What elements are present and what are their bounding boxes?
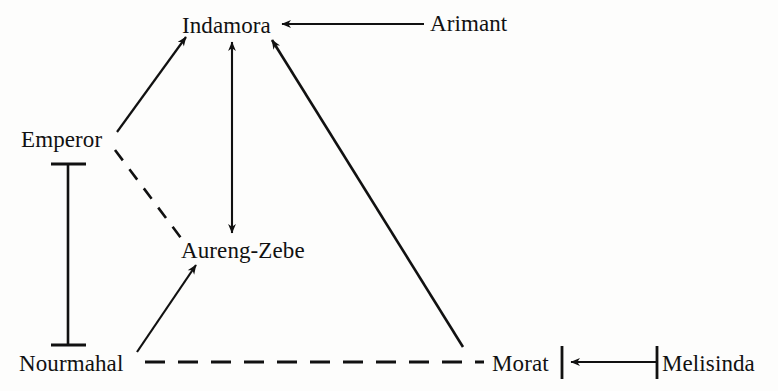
node-aureng-zebe[interactable]: Aureng-Zebe [181,239,305,262]
node-emperor[interactable]: Emperor [21,128,102,151]
node-nourmahal[interactable]: Nourmahal [19,352,123,375]
edge-nourmahal-aurengzebe [137,265,196,352]
diagram-canvas: Indamora Arimant Emperor Aureng-Zebe Nou… [0,0,778,391]
edge-emperor-nourmahal [51,163,86,346]
edge-emperor-aurengzebe [115,150,181,238]
diagram-edges-layer [0,0,778,391]
node-melisinda[interactable]: Melisinda [662,352,755,375]
node-arimant[interactable]: Arimant [430,12,507,35]
edge-melisinda-morat [562,346,657,379]
node-indamora[interactable]: Indamora [182,14,271,37]
node-morat[interactable]: Morat [492,352,549,375]
edge-morat-indamora [272,40,463,347]
edge-emperor-indamora [117,37,186,132]
